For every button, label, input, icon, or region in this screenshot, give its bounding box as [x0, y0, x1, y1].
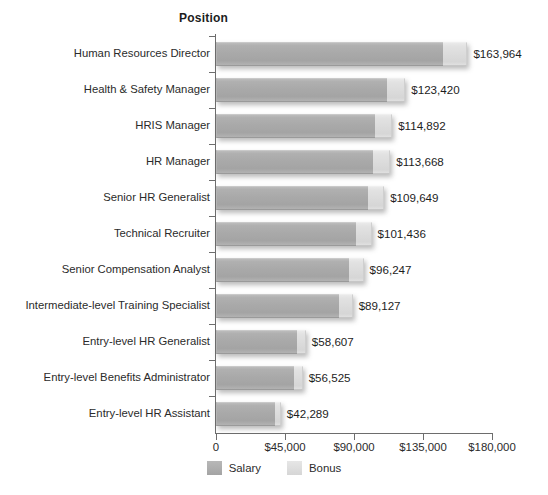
legend-item[interactable]: Bonus [287, 461, 341, 475]
category-label: Entry-level Benefits Administrator [0, 370, 210, 384]
bar-segment-bonus[interactable] [373, 150, 390, 174]
bar-segment-salary[interactable] [216, 258, 349, 282]
legend-label: Salary [229, 462, 261, 474]
y-axis-tick [209, 288, 216, 289]
bar-segment-bonus[interactable] [275, 402, 281, 426]
stacked-bar[interactable] [216, 366, 303, 390]
bar-segment-bonus[interactable] [349, 258, 363, 282]
category-label: Entry-level HR Assistant [0, 406, 210, 420]
category-label: Health & Safety Manager [0, 82, 210, 96]
chart-row: Human Resources Director$163,964 [0, 36, 548, 72]
chart-row: Health & Safety Manager$123,420 [0, 72, 548, 108]
chart-row: Intermediate-level Training Specialist$8… [0, 288, 548, 324]
bar-value-label: $123,420 [411, 82, 459, 97]
x-axis-tick-label: 0 [213, 441, 219, 453]
stacked-bar[interactable] [216, 114, 392, 138]
bar-segment-salary[interactable] [216, 366, 294, 390]
bar-segment-salary[interactable] [216, 402, 275, 426]
chart-row: HRIS Manager$114,892 [0, 108, 548, 144]
y-axis-tick [209, 324, 216, 325]
bar-segment-bonus[interactable] [375, 114, 392, 138]
y-axis-tick [209, 180, 216, 181]
x-axis-tick [216, 433, 217, 440]
y-axis-tick [209, 36, 216, 37]
x-axis-tick [423, 433, 424, 440]
chart-row: Senior Compensation Analyst$96,247 [0, 252, 548, 288]
category-label: HR Manager [0, 154, 210, 168]
chart-row: Technical Recruiter$101,436 [0, 216, 548, 252]
x-axis-tick-label: $90,000 [333, 441, 374, 453]
legend-swatch-salary [207, 461, 222, 475]
bar-segment-bonus[interactable] [339, 294, 352, 318]
bar-segment-salary[interactable] [216, 222, 356, 246]
bar-value-label: $101,436 [378, 226, 426, 241]
y-axis-tick [209, 216, 216, 217]
x-axis-tick-label: $180,000 [468, 441, 516, 453]
y-axis-tick [209, 252, 216, 253]
bar-segment-salary[interactable] [216, 294, 339, 318]
chart-row: Entry-level HR Generalist$58,607 [0, 324, 548, 360]
stacked-bar[interactable] [216, 78, 405, 102]
y-axis-tick [209, 108, 216, 109]
bar-segment-bonus[interactable] [443, 42, 467, 66]
bar-segment-bonus[interactable] [356, 222, 371, 246]
category-label: Senior HR Generalist [0, 190, 210, 204]
bar-segment-salary[interactable] [216, 78, 387, 102]
stacked-bar[interactable] [216, 150, 390, 174]
chart-legend: SalaryBonus [0, 461, 548, 475]
legend-swatch-bonus [287, 461, 302, 475]
bar-segment-bonus[interactable] [297, 330, 306, 354]
bar-value-label: $114,892 [398, 118, 446, 133]
bar-segment-bonus[interactable] [294, 366, 302, 390]
bar-value-label: $163,964 [473, 46, 521, 61]
stacked-bar[interactable] [216, 294, 353, 318]
chart-row: Entry-level Benefits Administrator$56,52… [0, 360, 548, 396]
stacked-bar[interactable] [216, 402, 281, 426]
y-axis-tick [209, 396, 216, 397]
stacked-bar[interactable] [216, 186, 384, 210]
bar-segment-salary[interactable] [216, 42, 443, 66]
chart-row: HR Manager$113,668 [0, 144, 548, 180]
stacked-bar[interactable] [216, 258, 364, 282]
stacked-bar[interactable] [216, 222, 372, 246]
salary-bonus-bar-chart: Position Human Resources Director$163,96… [0, 0, 548, 495]
bar-segment-salary[interactable] [216, 186, 368, 210]
chart-row: Senior HR Generalist$109,649 [0, 180, 548, 216]
y-axis-tick [209, 72, 216, 73]
x-axis-tick-label: $135,000 [399, 441, 447, 453]
category-label: Intermediate-level Training Specialist [0, 298, 210, 312]
legend-item[interactable]: Salary [207, 461, 261, 475]
x-axis-tick [285, 433, 286, 440]
legend-label: Bonus [309, 462, 341, 474]
x-axis-tick [354, 433, 355, 440]
stacked-bar[interactable] [216, 42, 467, 66]
bar-value-label: $42,289 [287, 406, 329, 421]
category-label: Entry-level HR Generalist [0, 334, 210, 348]
bar-segment-salary[interactable] [216, 330, 297, 354]
y-axis-tick [209, 144, 216, 145]
bar-segment-salary[interactable] [216, 114, 375, 138]
bar-value-label: $58,607 [312, 334, 354, 349]
bar-value-label: $113,668 [396, 154, 444, 169]
stacked-bar[interactable] [216, 330, 306, 354]
bar-value-label: $89,127 [359, 298, 401, 313]
y-axis-tick [209, 360, 216, 361]
category-label: HRIS Manager [0, 118, 210, 132]
y-axis-title: Position [120, 11, 228, 25]
bar-segment-bonus[interactable] [387, 78, 405, 102]
x-axis-tick-label: $45,000 [264, 441, 305, 453]
category-label: Senior Compensation Analyst [0, 262, 210, 276]
chart-row: Entry-level HR Assistant$42,289 [0, 396, 548, 432]
category-label: Human Resources Director [0, 46, 210, 60]
bar-segment-salary[interactable] [216, 150, 373, 174]
bar-value-label: $96,247 [370, 262, 412, 277]
category-label: Technical Recruiter [0, 226, 210, 240]
bar-value-label: $109,649 [390, 190, 438, 205]
x-axis-tick [492, 433, 493, 440]
bar-segment-bonus[interactable] [368, 186, 384, 210]
bar-value-label: $56,525 [309, 370, 351, 385]
